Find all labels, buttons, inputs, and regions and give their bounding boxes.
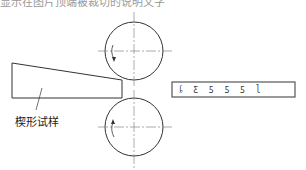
top-caption: 显示在图片顶端被裁切的说明文字 <box>0 0 165 9</box>
upper-roller <box>98 12 172 88</box>
specimen-label: 楔形试样 <box>15 113 59 129</box>
rolling-diagram: 显示在图片顶端被裁切的说明文字 楔形试样 ᶋ ƹ ƽ ƽ ƽ ɭ <box>0 0 306 170</box>
strip-marks: ᶋ ƹ ƽ ƽ ƽ ɭ <box>179 84 264 93</box>
lower-roller <box>98 90 172 168</box>
rotation-arrow-icon <box>112 45 114 59</box>
wedge-specimen <box>12 63 122 98</box>
leader-line <box>36 88 42 110</box>
rotation-arrow-icon <box>112 122 114 137</box>
